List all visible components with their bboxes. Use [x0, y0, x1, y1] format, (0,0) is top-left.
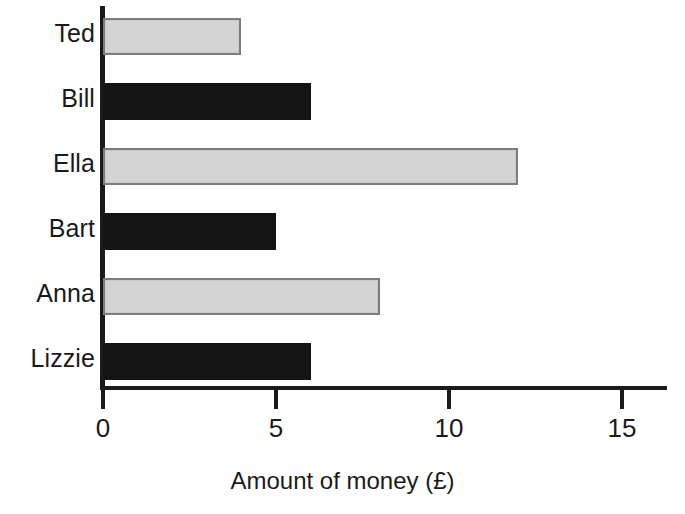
bar-row: Ella	[0, 144, 685, 209]
x-tick-label: 10	[409, 412, 489, 444]
bar-category-label: Ella	[0, 148, 95, 178]
bar-category-label: Lizzie	[0, 343, 95, 373]
x-axis-title: Amount of money (£)	[0, 466, 685, 496]
bar-ted	[103, 18, 241, 55]
x-tick-label: 5	[236, 412, 316, 444]
bar-bart	[103, 213, 276, 250]
bar-row: Anna	[0, 274, 685, 339]
bar-anna	[103, 278, 380, 315]
bar-category-label: Anna	[0, 278, 95, 308]
x-tick	[101, 388, 105, 409]
x-tick	[447, 388, 451, 409]
x-tick	[274, 388, 278, 409]
x-tick-label: 15	[582, 412, 662, 444]
x-tick-label: 0	[63, 412, 143, 444]
bar-bill	[103, 83, 311, 120]
bar-row: Bart	[0, 209, 685, 274]
plot-area: TedBillEllaBartAnnaLizzie 051015 Amount …	[0, 0, 685, 514]
bars-layer: TedBillEllaBartAnnaLizzie	[0, 0, 685, 390]
bar-row: Bill	[0, 79, 685, 144]
bar-lizzie	[103, 343, 311, 380]
bar-category-label: Bill	[0, 83, 95, 113]
bar-ella	[103, 148, 518, 185]
bar-chart: TedBillEllaBartAnnaLizzie 051015 Amount …	[0, 0, 685, 514]
x-tick	[620, 388, 624, 409]
bar-row: Ted	[0, 14, 685, 79]
bar-category-label: Ted	[0, 18, 95, 48]
bar-category-label: Bart	[0, 213, 95, 243]
